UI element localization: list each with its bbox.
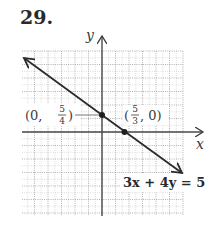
point-y-intercept	[99, 112, 105, 118]
coordinate-graph: x y (0, 5 4 ) ( 5 3 , 0) 3x + 4y = 5	[0, 0, 214, 236]
svg-text:(0,: (0,	[25, 108, 42, 123]
svg-text:(: (	[124, 108, 129, 123]
svg-text:): )	[68, 108, 73, 123]
svg-text:5: 5	[59, 104, 65, 114]
equation-label: 3x + 4y = 5	[123, 175, 205, 190]
svg-text:3: 3	[132, 116, 138, 126]
point-x-intercept	[122, 129, 128, 135]
svg-text:, 0): , 0)	[140, 108, 162, 123]
label-x-intercept: ( 5 3 , 0)	[123, 104, 168, 126]
x-axis-label: x	[196, 136, 204, 152]
svg-text:4: 4	[59, 116, 65, 126]
svg-text:5: 5	[132, 104, 138, 114]
label-y-intercept: (0, 5 4 )	[22, 104, 99, 126]
y-axis-label: y	[85, 27, 95, 43]
